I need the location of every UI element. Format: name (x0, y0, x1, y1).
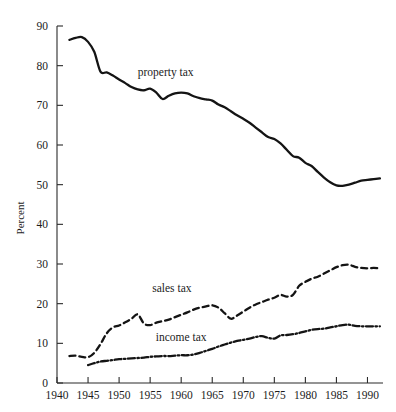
series-label-income-tax: income tax (156, 331, 207, 343)
tax-revenue-line-chart: 0102030405060708090 19401945195019551960… (0, 0, 396, 412)
y-tick-label: 70 (37, 99, 49, 111)
x-tick-label: 1975 (263, 389, 286, 401)
x-tick-label: 1960 (170, 389, 193, 401)
y-tick-label: 50 (37, 179, 49, 191)
x-tick-label: 1980 (294, 389, 317, 401)
y-tick-label: 80 (37, 60, 49, 72)
series-label-sales-tax: sales tax (152, 282, 192, 294)
y-tick-label: 20 (37, 298, 49, 310)
series-label-property-tax: property tax (138, 66, 194, 79)
x-tick-label: 1985 (325, 389, 348, 401)
y-tick-label: 60 (37, 139, 49, 151)
x-tick-label: 1990 (356, 389, 379, 401)
y-tick-label: 30 (37, 258, 49, 270)
y-tick-label: 0 (42, 377, 48, 389)
y-tick-label: 90 (37, 20, 49, 32)
chart-background (0, 0, 396, 412)
x-tick-label: 1945 (77, 389, 100, 401)
x-tick-label: 1940 (46, 389, 69, 401)
chart-plot-area: 0102030405060708090 19401945195019551960… (0, 0, 396, 412)
y-axis-title: Percent (14, 202, 26, 235)
x-tick-label: 1950 (108, 389, 131, 401)
x-tick-label: 1970 (232, 389, 255, 401)
x-tick-label: 1955 (139, 389, 162, 401)
y-tick-label: 10 (37, 337, 49, 349)
y-tick-label: 40 (37, 218, 49, 230)
x-tick-label: 1965 (201, 389, 224, 401)
